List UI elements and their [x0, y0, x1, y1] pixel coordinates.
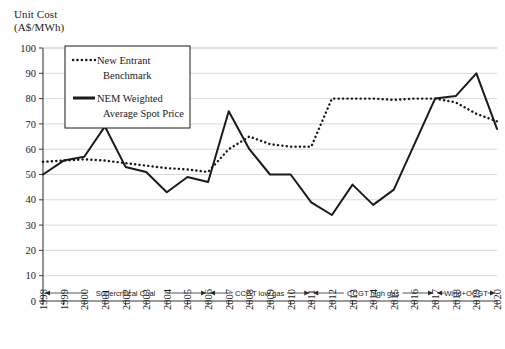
x-axis-tick-label: 2010 — [286, 289, 297, 310]
y-axis-tick-label: 100 — [20, 43, 36, 54]
legend-label-new-entrant-benchmark-line2: Benchmark — [103, 70, 152, 81]
x-axis-tick-label: 2005 — [182, 289, 193, 310]
legend-label-nem-weighted-average-spot-price: NEM Weighted — [97, 93, 163, 104]
y-axis-tick-label: 90 — [26, 68, 37, 79]
chart-legend: New EntrantBenchmarkNEM WeightedAverage … — [65, 46, 190, 128]
annotation-band-label: Wind+OCGT — [444, 289, 488, 298]
x-axis-tick-label: 2004 — [162, 288, 173, 310]
legend-label-nem-weighted-average-spot-price-line2: Average Spot Price — [103, 108, 184, 119]
x-axis-tick-label: 1999 — [59, 289, 70, 310]
y-axis-tick-label: 40 — [26, 194, 37, 205]
y-axis-tick-label: 30 — [26, 220, 37, 231]
chart-container: Unit Cost (A$/MWh) 010203040506070809010… — [0, 0, 505, 349]
y-axis-tick-label: 60 — [26, 144, 37, 155]
y-axis-tick-label: 10 — [26, 270, 37, 281]
y-axis-tick-label: 80 — [26, 93, 37, 104]
y-axis-tick-label: 70 — [26, 119, 37, 130]
annotation-band-label: CCGT low gas — [235, 289, 284, 298]
annotation-bands: Supercritical CoalCCGT low gasCCGT high … — [45, 289, 495, 298]
y-axis-tick-label: 50 — [26, 169, 37, 180]
y-axis-tick-label: 20 — [26, 245, 37, 256]
x-axis-tick-label: 2016 — [409, 289, 420, 310]
x-axis-tick-label: 2000 — [79, 289, 90, 310]
x-axis-tick-label: 2007 — [224, 289, 235, 310]
x-axis-tick-label: 2012 — [327, 289, 338, 310]
annotation-band-label: CCGT high gas — [347, 289, 399, 298]
annotation-band-label: Supercritical Coal — [96, 289, 156, 298]
chart-plot-area: 0102030405060708090100 19981999200020012… — [0, 0, 505, 349]
x-axis-tick-label: 2020 — [492, 289, 503, 310]
y-axis-tick-label: 0 — [31, 296, 36, 307]
legend-label-new-entrant-benchmark: New Entrant — [97, 55, 150, 66]
y-axis-ticks: 0102030405060708090100 — [20, 43, 43, 307]
